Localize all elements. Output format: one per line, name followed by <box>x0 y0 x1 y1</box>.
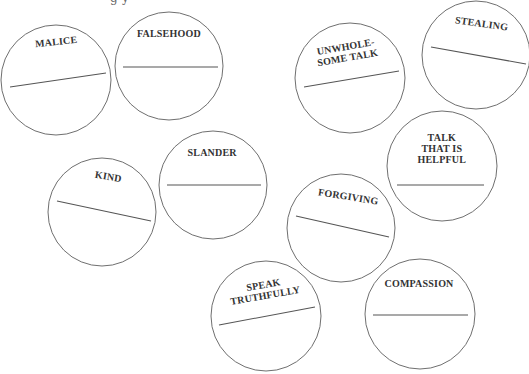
label-line: TALK <box>418 132 467 143</box>
circle-outline <box>387 111 497 221</box>
circle-talk-that-is-helpful <box>387 111 497 221</box>
label-line: THAT IS <box>418 143 467 154</box>
circle-compassion <box>365 259 475 369</box>
label-line: COMPASSION <box>385 278 454 289</box>
label-slander: SLANDER <box>188 147 237 158</box>
label-line: SLANDER <box>188 147 237 158</box>
label-line: FALSEHOOD <box>137 28 201 39</box>
label-talk-that-is-helpful: TALKTHAT ISHELPFUL <box>418 132 467 165</box>
label-compassion: COMPASSION <box>385 278 454 289</box>
worksheet-circles <box>0 0 529 374</box>
circle-outline <box>365 259 475 369</box>
label-falsehood: FALSEHOOD <box>137 28 201 39</box>
label-line: HELPFUL <box>418 154 467 165</box>
